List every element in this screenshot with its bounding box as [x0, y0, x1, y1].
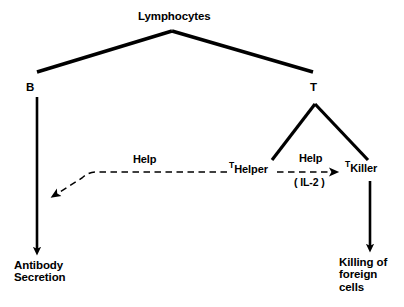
antibody-line-2: Secretion — [14, 271, 66, 283]
edge-lymphocytes-to-t — [172, 31, 313, 72]
node-label-t-helper: THelper — [229, 161, 268, 176]
node-label-t-cell: T — [310, 81, 317, 93]
edge-help-to-b-dashed — [55, 172, 227, 195]
edge-label-cytokine-il2: ( IL-2 ) — [294, 177, 325, 188]
killing-line-3: cells — [339, 281, 364, 293]
edge-t-to-t-killer — [315, 104, 368, 160]
edge-label-help-to-t-killer: Help — [299, 153, 322, 165]
antibody-line-1: Antibody — [14, 259, 63, 271]
diagram-canvas: Lymphocytes B T THelper TKiller Help Hel… — [0, 0, 404, 307]
node-label-killing-of-foreign-cells: Killing offoreigncells — [339, 256, 387, 293]
killing-line-1: Killing of — [339, 256, 387, 268]
t-helper-subscript: Helper — [234, 163, 268, 175]
killing-line-2: foreign — [339, 268, 377, 280]
node-label-t-killer: TKiller — [345, 160, 377, 175]
edge-label-help-to-b: Help — [133, 154, 156, 166]
node-label-antibody-secretion: AntibodySecretion — [14, 259, 66, 284]
edge-lymphocytes-to-b — [37, 31, 172, 72]
node-label-lymphocytes: Lymphocytes — [138, 10, 211, 22]
t-killer-subscript: Killer — [350, 162, 377, 174]
node-label-b-cell: B — [26, 81, 34, 93]
